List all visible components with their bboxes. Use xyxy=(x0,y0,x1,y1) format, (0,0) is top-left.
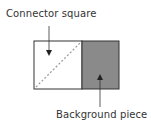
block-diagram xyxy=(0,0,151,129)
connector-square xyxy=(34,41,82,89)
background-piece xyxy=(82,41,119,89)
